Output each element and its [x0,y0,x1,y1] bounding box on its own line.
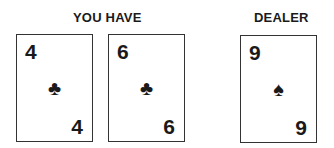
club-icon: ♣ [140,78,153,98]
spade-icon: ♠ [273,79,284,99]
card-rank: 9 [249,41,261,65]
card-rank: 4 [25,40,37,64]
player-card-1: 4 ♣ 4 [16,34,93,142]
club-icon: ♣ [48,78,61,98]
player-card-2: 6 ♣ 6 [108,34,185,142]
card-rank: 9 [295,116,307,140]
dealer-card-1: 9 ♠ 9 [240,35,317,143]
dealer-hand-label: DEALER [254,10,309,25]
card-rank: 6 [163,115,175,139]
card-rank: 4 [71,115,83,139]
player-hand-label: YOU HAVE [73,10,142,25]
card-rank: 6 [117,40,129,64]
